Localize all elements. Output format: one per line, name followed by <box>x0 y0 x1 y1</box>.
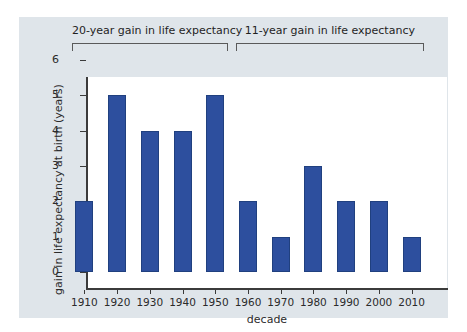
y-axis-tick <box>80 166 86 167</box>
bar[interactable] <box>75 201 93 272</box>
x-axis-tick-label: 2000 <box>362 296 396 308</box>
annotation-bracket-20-year-gain <box>72 43 228 51</box>
annotation-label-20-year-gain: 20-year gain in life expectancy <box>72 24 228 37</box>
bar[interactable] <box>206 95 224 272</box>
x-axis-line <box>86 288 448 290</box>
bar[interactable] <box>403 237 421 272</box>
x-axis-tick-label: 1910 <box>67 296 101 308</box>
y-axis-tick <box>80 95 86 96</box>
bar[interactable] <box>174 131 192 272</box>
x-axis-tick <box>313 290 314 294</box>
x-axis-tick-label: 1980 <box>296 296 330 308</box>
bar[interactable] <box>239 201 257 272</box>
y-axis-tick-label: 6 <box>19 53 59 66</box>
x-axis-tick <box>281 290 282 294</box>
x-axis-tick <box>150 290 151 294</box>
x-axis-tick-label: 1930 <box>133 296 167 308</box>
x-axis-tick-label: 1940 <box>166 296 200 308</box>
x-axis-tick-label: 1960 <box>231 296 265 308</box>
x-axis-tick <box>183 290 184 294</box>
x-axis-tick <box>215 290 216 294</box>
x-axis-tick <box>248 290 249 294</box>
x-axis-tick <box>117 290 118 294</box>
x-axis-tick <box>346 290 347 294</box>
chart-figure: 20-year gain in life expectancy 11-year … <box>0 0 467 332</box>
x-axis-tick-label: 1950 <box>198 296 232 308</box>
x-axis-tick-label: 1920 <box>100 296 134 308</box>
x-axis-tick <box>412 290 413 294</box>
bar[interactable] <box>272 237 290 272</box>
annotation-bracket-11-year-gain <box>236 43 424 51</box>
y-axis-tick <box>80 272 86 273</box>
x-axis-title: decade <box>87 313 447 326</box>
x-axis-tick-label: 1970 <box>264 296 298 308</box>
x-axis-tick-label: 2010 <box>395 296 429 308</box>
y-axis-tick <box>80 131 86 132</box>
bar[interactable] <box>304 166 322 272</box>
y-axis-title: gain in life expectancy at birth (years) <box>52 74 65 306</box>
bar[interactable] <box>370 201 388 272</box>
x-axis-tick <box>379 290 380 294</box>
x-axis-tick <box>84 290 85 294</box>
y-axis-tick <box>80 60 86 61</box>
x-axis-tick-label: 1990 <box>329 296 363 308</box>
bar[interactable] <box>337 201 355 272</box>
chart-panel: 20-year gain in life expectancy 11-year … <box>19 17 448 318</box>
annotation-label-11-year-gain: 11-year gain in life expectancy <box>236 24 424 37</box>
bar[interactable] <box>108 95 126 272</box>
bar[interactable] <box>141 131 159 272</box>
